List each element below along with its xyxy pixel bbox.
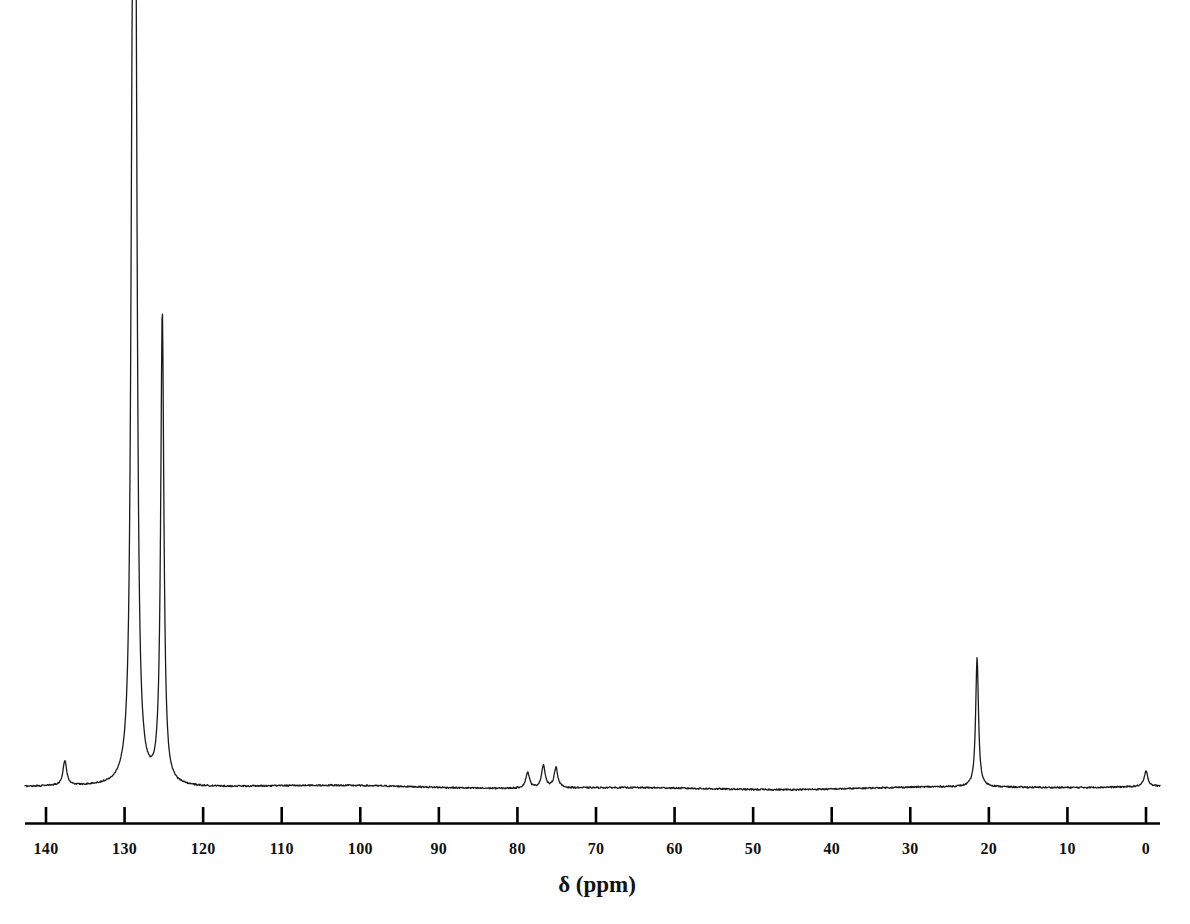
spectrum-trace-group xyxy=(25,0,1160,790)
x-axis-tick-label: 70 xyxy=(588,840,605,858)
x-axis-tick-label: 80 xyxy=(509,840,526,858)
x-axis-tick-label: 10 xyxy=(1059,840,1076,858)
x-axis-tick-label: 100 xyxy=(348,840,373,858)
x-axis-tick-label: 20 xyxy=(981,840,998,858)
x-axis-tick-label: 0 xyxy=(1142,840,1150,858)
x-axis-title: δ (ppm) xyxy=(558,872,636,898)
x-axis-tick-label: 120 xyxy=(191,840,216,858)
x-axis-tick-label: 60 xyxy=(666,840,683,858)
spectrum-plot xyxy=(0,0,1190,924)
x-axis-tick-label: 130 xyxy=(112,840,137,858)
x-axis-ticks xyxy=(46,807,1146,824)
x-axis-tick-label: 110 xyxy=(270,840,294,858)
nmr-spectrum-figure: 1401301201101009080706050403020100 δ (pp… xyxy=(0,0,1190,924)
x-axis-tick-label: 140 xyxy=(34,840,59,858)
spectrum-trace xyxy=(25,0,1160,790)
x-axis-group xyxy=(25,807,1160,824)
x-axis-tick-label: 30 xyxy=(902,840,919,858)
x-axis-tick-label: 50 xyxy=(745,840,762,858)
x-axis-tick-label: 90 xyxy=(431,840,448,858)
x-axis-tick-label: 40 xyxy=(823,840,840,858)
